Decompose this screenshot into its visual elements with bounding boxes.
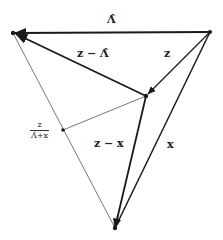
vector-lambda	[15, 32, 210, 33]
fraction-denominator: Λ̂+x	[30, 130, 49, 140]
vertex-interior	[144, 94, 148, 98]
vector-z-minus-x	[115, 96, 146, 228]
vertex-left-mid	[61, 128, 65, 132]
vector-x	[115, 32, 210, 228]
label-z-minus-lambda: z − Λ̂	[77, 48, 109, 59]
vector-triangle-diagram: Λ̂ z − Λ̂ z z − x x z Λ̂+x	[0, 0, 223, 240]
label-fraction: z Λ̂+x	[30, 121, 49, 140]
vertex-bottom	[113, 226, 117, 230]
fraction-numerator: z	[35, 121, 43, 130]
vector-z-minus-lambda	[16, 34, 146, 96]
edge-leftmid-interior	[63, 96, 146, 130]
label-lambda: Λ̂	[107, 14, 116, 25]
vector-z	[148, 32, 210, 94]
label-x: x	[167, 139, 174, 150]
label-z: z	[164, 48, 170, 59]
vertex-top-right	[208, 30, 212, 34]
label-z-minus-x: z − x	[94, 138, 124, 149]
diagram-lines	[0, 0, 223, 240]
vertex-top-left	[11, 31, 15, 35]
